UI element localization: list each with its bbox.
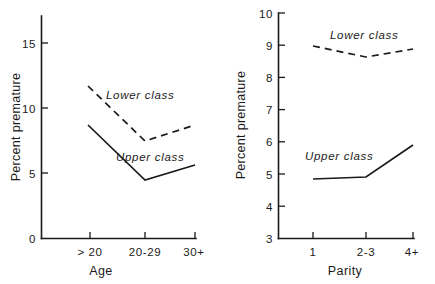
age-xtick-label-1: > 20 — [77, 246, 102, 258]
parity-ytick-label-8: 8 — [266, 72, 273, 84]
parity-series-lower-class — [313, 46, 413, 57]
parity-ytick-label-3: 3 — [266, 233, 273, 245]
chart-panel-parity: 10 9 8 7 6 5 4 3 1 2-3 4+ Parity Percent… — [215, 0, 435, 284]
parity-ytick-label-10: 10 — [259, 8, 273, 20]
parity-ytick-label-7: 7 — [266, 104, 273, 116]
chart-panel-age: 15 10 5 0 > 20 20-29 30+ Age Percent pre… — [0, 0, 215, 284]
age-y-axis-title: Percent premature — [9, 73, 23, 182]
age-ytick-label-0: 0 — [29, 233, 36, 245]
two-panel-line-chart-figure: 15 10 5 0 > 20 20-29 30+ Age Percent pre… — [0, 0, 435, 284]
parity-ytick-label-5: 5 — [266, 169, 273, 181]
parity-ytick-label-6: 6 — [266, 136, 273, 148]
age-xtick-label-3: 30+ — [183, 246, 204, 258]
parity-ytick-label-4: 4 — [266, 201, 273, 213]
parity-xtick-label-2: 2-3 — [357, 246, 375, 258]
parity-label-upper-class: Upper class — [305, 150, 373, 162]
age-label-upper-class: Upper class — [116, 151, 184, 163]
parity-label-lower-class: Lower class — [330, 29, 398, 41]
age-label-lower-class: Lower class — [106, 89, 174, 101]
parity-chart-svg: 10 9 8 7 6 5 4 3 1 2-3 4+ Parity Percent… — [215, 0, 435, 284]
age-ytick-label-10: 10 — [22, 103, 36, 115]
age-ytick-label-5: 5 — [29, 168, 36, 180]
parity-xtick-label-3: 4+ — [405, 246, 419, 258]
age-x-axis-title: Age — [89, 264, 112, 278]
parity-ytick-label-9: 9 — [266, 40, 273, 52]
age-xtick-label-2: 20-29 — [129, 246, 161, 258]
parity-x-axis-title: Parity — [328, 264, 363, 278]
parity-xtick-label-1: 1 — [310, 246, 317, 258]
age-ytick-label-15: 15 — [22, 38, 36, 50]
age-chart-svg: 15 10 5 0 > 20 20-29 30+ Age Percent pre… — [0, 0, 215, 284]
parity-y-axis-title: Percent premature — [234, 71, 248, 180]
